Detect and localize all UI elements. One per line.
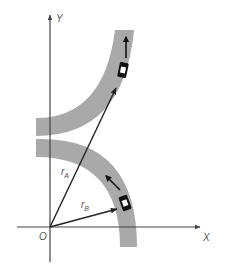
y-axis-label: Y [56, 13, 64, 24]
vector-r-b-label: rB [81, 199, 89, 212]
upper-road [36, 30, 134, 136]
lower-road [36, 139, 137, 247]
x-axis-label: X [202, 232, 210, 243]
vector-r-a-label: rA [61, 166, 69, 179]
origin-label: O [39, 231, 47, 242]
kinematics-diagram: Y X O rA rB [0, 0, 226, 272]
